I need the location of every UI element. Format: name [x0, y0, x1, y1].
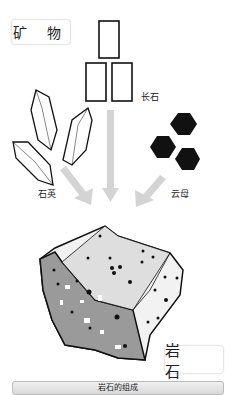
rock-title: 岩 石: [164, 345, 224, 374]
quartz-label: 石英: [38, 187, 56, 200]
feldspar-icon: [86, 21, 132, 101]
rock-icon: [40, 226, 183, 360]
mica-icon: [150, 113, 200, 170]
feldspar-label: 长石: [141, 90, 159, 103]
caption-bar: 岩石的组成: [12, 381, 224, 395]
mica-label: 云母: [171, 187, 189, 200]
quartz-icon: [13, 90, 92, 185]
minerals-title: 矿 物: [11, 19, 71, 45]
